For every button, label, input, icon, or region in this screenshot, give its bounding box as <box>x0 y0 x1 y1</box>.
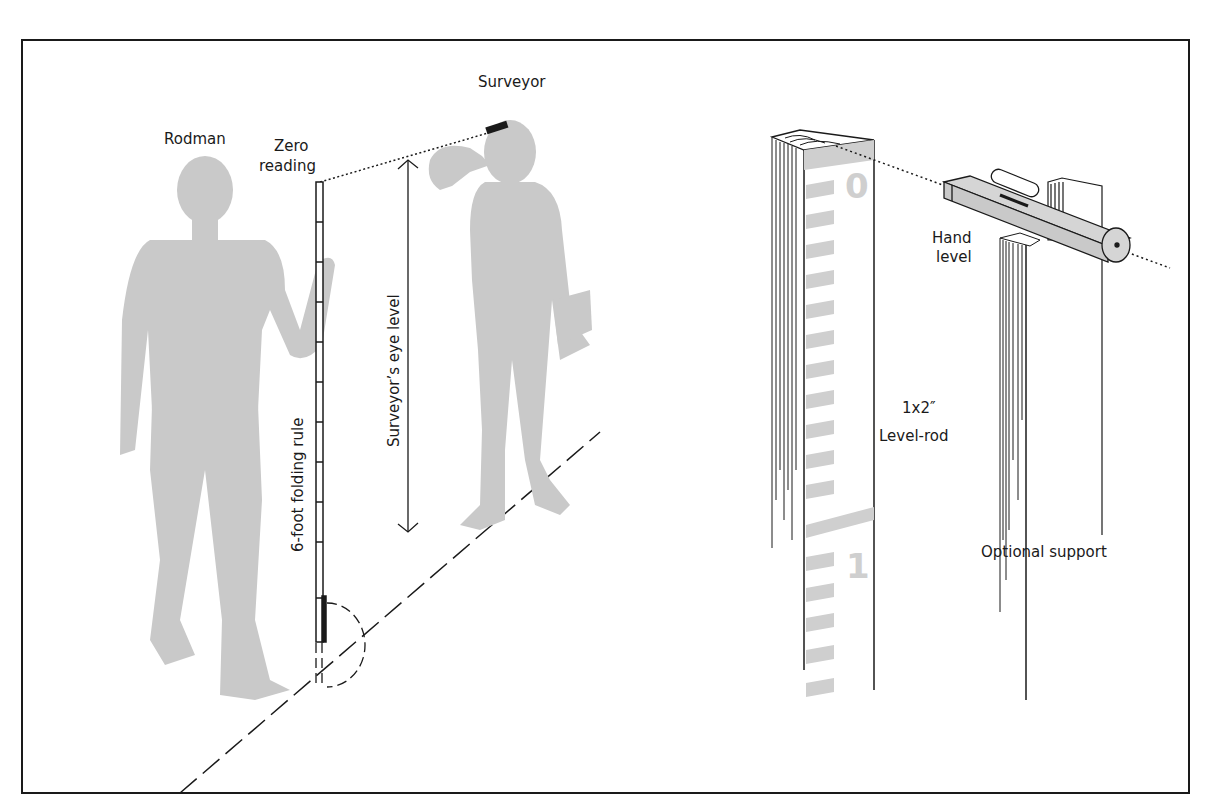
optional-support-front <box>1000 233 1040 700</box>
label-level-rod-1: 1x2″ <box>902 399 936 417</box>
level-rod: 0 1 <box>772 130 874 697</box>
surveyor-silhouette <box>429 120 592 530</box>
label-optional-support: Optional support <box>981 543 1107 561</box>
label-hand-level-1: Hand <box>932 229 972 247</box>
label-level-rod-2: Level-rod <box>879 427 949 445</box>
label-eye-level: Surveyor’s eye level <box>385 294 403 447</box>
label-hand-level-2: level <box>936 248 972 266</box>
folding-rule <box>316 182 326 642</box>
label-surveyor: Surveyor <box>478 73 546 91</box>
rod-numeral-zero: 0 <box>845 166 869 206</box>
label-rodman: Rodman <box>164 130 226 148</box>
label-zero-reading-2: reading <box>259 157 316 175</box>
label-folding-rule: 6-foot folding rule <box>289 418 307 552</box>
rod-numeral-one: 1 <box>846 546 870 586</box>
label-zero-reading-1: Zero <box>274 137 309 155</box>
diagram-canvas: Rodman Surveyor Zero reading 6-foot fold… <box>0 0 1209 808</box>
